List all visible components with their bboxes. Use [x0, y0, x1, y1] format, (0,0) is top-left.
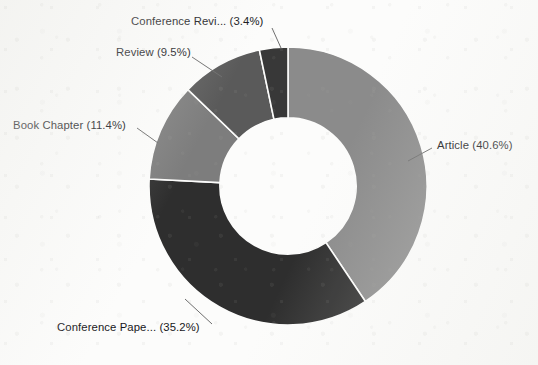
slice-label-book-chapter: Book Chapter (11.4%): [13, 120, 126, 131]
leader-line-conference-review: [272, 28, 281, 48]
slice-label-conference-review: Conference Revi... (3.4%): [131, 16, 263, 27]
donut-chart: Article (40.6%) Conference Pape... (35.2…: [0, 0, 538, 365]
slice-label-article: Article (40.6%): [437, 140, 513, 151]
slice-label-review: Review (9.5%): [116, 47, 191, 58]
donut-slice-conference-pape[interactable]: [149, 179, 365, 325]
leader-line-book-chapter: [137, 128, 158, 143]
slice-label-conference-paper: Conference Pape... (35.2%): [57, 322, 200, 333]
donut-slice-group: [149, 47, 427, 325]
donut-chart-svg: [0, 0, 538, 365]
